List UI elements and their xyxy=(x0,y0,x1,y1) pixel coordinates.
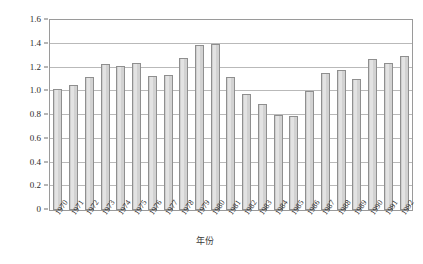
x-axis-ticks: 1970197119721973197419751976197719781979… xyxy=(49,210,411,246)
y-tick-label: 0.6 xyxy=(30,133,41,142)
y-tick-mark xyxy=(44,161,48,162)
bar-1983[interactable] xyxy=(258,104,267,210)
bar-1981[interactable] xyxy=(226,77,235,210)
bar-1992[interactable] xyxy=(400,56,409,210)
bar-1978[interactable] xyxy=(179,58,188,210)
y-tick-label: 1.4 xyxy=(30,38,41,47)
bar-1973[interactable] xyxy=(101,64,110,210)
y-tick-mark xyxy=(44,66,48,67)
y-tick-label: 0.2 xyxy=(30,181,41,190)
bar-1984[interactable] xyxy=(274,115,283,210)
bar-1976[interactable] xyxy=(148,76,157,210)
y-tick-mark xyxy=(44,137,48,138)
y-tick-mark xyxy=(44,90,48,91)
bar-1982[interactable] xyxy=(242,94,251,210)
bar-1990[interactable] xyxy=(368,59,377,210)
y-tick-mark xyxy=(44,185,48,186)
y-tick-label: 0.8 xyxy=(30,110,41,119)
y-axis-ticks: 00.20.40.60.81.01.21.41.6 xyxy=(0,19,48,209)
y-tick-label: 0.4 xyxy=(30,157,41,166)
bars-layer xyxy=(50,20,412,210)
bar-1974[interactable] xyxy=(116,66,125,210)
y-tick-label: 1.6 xyxy=(30,15,41,24)
y-tick-mark xyxy=(44,42,48,43)
y-tick-label: 1.0 xyxy=(30,86,41,95)
y-tick-mark xyxy=(44,209,48,210)
y-tick-label: 1.2 xyxy=(30,62,41,71)
bar-1986[interactable] xyxy=(305,91,314,210)
x-axis-title: 年份 xyxy=(196,236,214,246)
bar-chart-figure: 1欧元可兑换的美元/美元 00.20.40.60.81.01.21.41.6 1… xyxy=(0,0,423,264)
bar-1971[interactable] xyxy=(69,85,78,210)
bar-1987[interactable] xyxy=(321,73,330,210)
plot-area xyxy=(49,19,413,211)
bar-1979[interactable] xyxy=(195,45,204,210)
y-tick-mark xyxy=(44,19,48,20)
bar-1977[interactable] xyxy=(164,75,173,210)
bar-1980[interactable] xyxy=(211,44,220,210)
bar-1972[interactable] xyxy=(85,77,94,210)
bar-1989[interactable] xyxy=(352,79,361,210)
bar-1975[interactable] xyxy=(132,63,141,210)
bar-1985[interactable] xyxy=(289,116,298,210)
y-tick-mark xyxy=(44,114,48,115)
bar-1991[interactable] xyxy=(384,63,393,210)
y-tick-label: 0 xyxy=(37,205,42,214)
bar-1988[interactable] xyxy=(337,70,346,210)
bar-1970[interactable] xyxy=(53,89,62,210)
